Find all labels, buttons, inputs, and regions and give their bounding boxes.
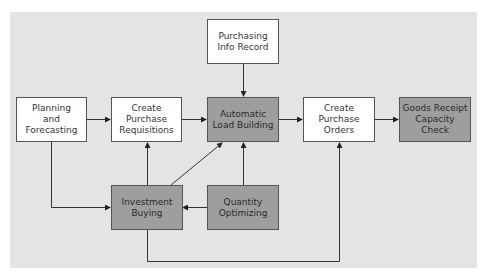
arrow-investment-to-load-building [171,143,222,185]
node-quantity-optimizing: Quantity Optimizing [207,185,279,230]
node-label: Create Purchase Requisitions [119,103,173,136]
node-label: Create Purchase Orders [319,103,360,136]
node-label: Automatic Load Building [213,109,274,131]
arrow-planning-to-investment [52,142,111,208]
node-label: Quantity Optimizing [219,197,268,219]
node-label: Purchasing Info Record [218,31,269,53]
node-planning-and-forecasting: Planning and Forecasting [16,97,87,142]
node-label: Goods Receipt Capacity Check [402,103,468,136]
node-investment-buying: Investment Buying [111,185,183,230]
node-automatic-load-building: Automatic Load Building [207,97,279,142]
node-goods-receipt-capacity-check: Goods Receipt Capacity Check [399,97,471,142]
node-purchasing-info-record: Purchasing Info Record [207,19,279,64]
node-label: Investment Buying [122,197,173,219]
node-create-purchase-orders: Create Purchase Orders [303,97,375,142]
node-label: Planning and Forecasting [25,103,77,136]
node-create-purchase-requisitions: Create Purchase Requisitions [111,97,182,142]
